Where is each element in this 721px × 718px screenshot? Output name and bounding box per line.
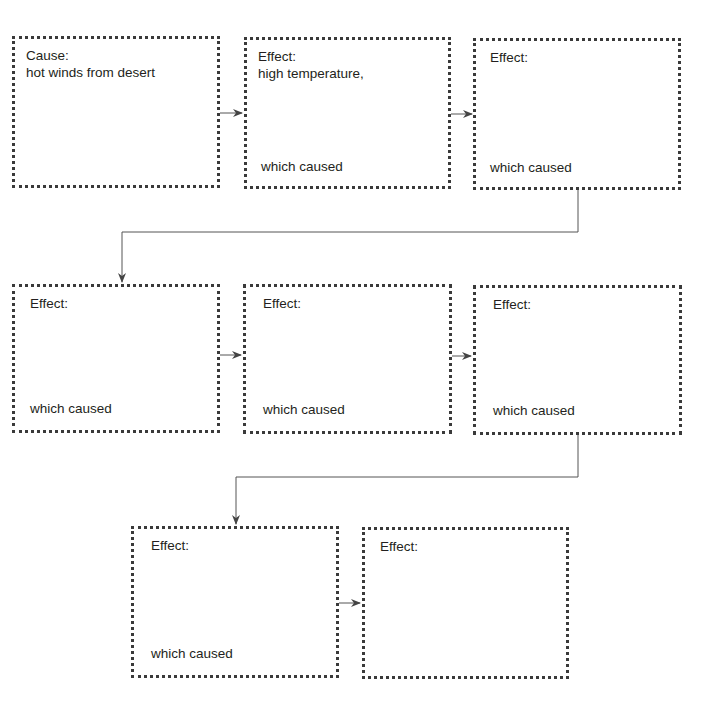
effect-box-3: Effect: which caused xyxy=(12,284,220,433)
effect-box-5: Effect: which caused xyxy=(473,285,682,435)
box-header: Effect: xyxy=(263,295,301,312)
box-label: Effect: xyxy=(151,537,189,554)
box-header: Effect: xyxy=(151,537,189,554)
arrow-b6-b7 xyxy=(236,434,578,524)
box-label: Effect: xyxy=(30,295,68,312)
box-header: Effect: high temperature, xyxy=(258,48,364,82)
box-label: Effect: xyxy=(493,296,531,313)
box-label: Cause: xyxy=(26,47,155,64)
box-label: Effect: xyxy=(263,295,301,312)
box-label: Effect: xyxy=(258,48,364,65)
arrow-b3-b4 xyxy=(122,189,578,282)
box-footer: which caused xyxy=(263,401,345,418)
effect-box-1: Effect: high temperature, which caused xyxy=(244,37,451,189)
cause-box: Cause: hot winds from desert xyxy=(12,36,220,188)
effect-box-2: Effect: which caused xyxy=(473,38,681,190)
box-label: Effect: xyxy=(490,49,528,66)
effect-box-4: Effect: which caused xyxy=(243,284,452,434)
box-header: Effect: xyxy=(493,296,531,313)
box-content: high temperature, xyxy=(258,65,364,82)
box-header: Effect: xyxy=(30,295,68,312)
box-footer: which caused xyxy=(261,158,343,175)
effect-box-6: Effect: which caused xyxy=(131,526,339,678)
box-content: hot winds from desert xyxy=(26,64,155,81)
effect-box-7: Effect: xyxy=(362,527,569,679)
box-footer: which caused xyxy=(30,400,112,417)
box-label: Effect: xyxy=(380,538,418,555)
box-header: Cause: hot winds from desert xyxy=(26,47,155,81)
box-footer: which caused xyxy=(493,402,575,419)
box-footer: which caused xyxy=(151,645,233,662)
box-footer: which caused xyxy=(490,159,572,176)
box-header: Effect: xyxy=(380,538,418,555)
box-header: Effect: xyxy=(490,49,528,66)
